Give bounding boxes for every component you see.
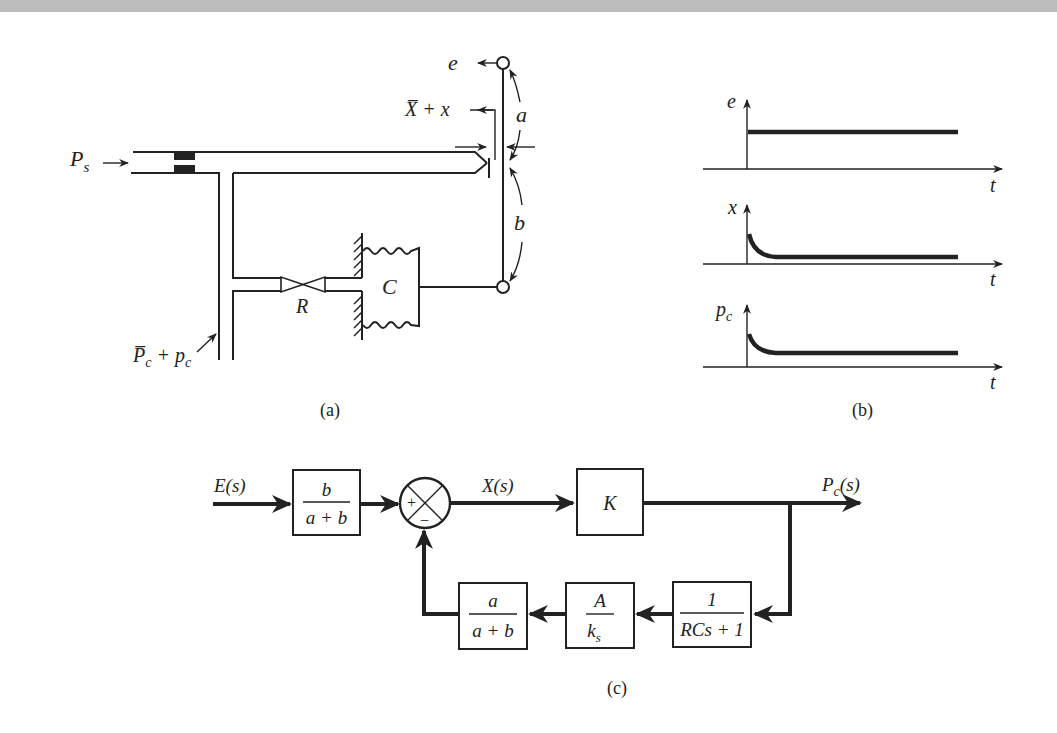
summing-plus-sign: + bbox=[407, 494, 416, 511]
orifice-bottom bbox=[174, 165, 195, 172]
vertical-pipe-inner-upper bbox=[233, 173, 281, 278]
lever-b-arc-upper bbox=[510, 168, 522, 205]
feedback-return-line bbox=[424, 531, 459, 614]
summing-minus-sign: − bbox=[420, 512, 429, 529]
graph-x-curve bbox=[749, 234, 958, 257]
wall-hatch bbox=[354, 236, 362, 336]
block-feedback-gain-num: a bbox=[488, 590, 498, 611]
lever-top-pivot bbox=[497, 57, 509, 69]
block-forward-k-label: K bbox=[602, 492, 618, 514]
signal-error-label: X(s) bbox=[481, 475, 514, 497]
orifice-top bbox=[174, 153, 195, 160]
panel-a-schematic: Ps X̅ + x e a b bbox=[69, 50, 535, 421]
lever-a-label: a bbox=[516, 102, 527, 127]
figure-canvas: Ps X̅ + x e a b bbox=[0, 0, 1057, 733]
signal-output-label: Pc(s) bbox=[821, 474, 860, 499]
input-displacement-label: e bbox=[448, 50, 458, 75]
main-pipe-bottom-left bbox=[131, 173, 219, 360]
supply-pressure-label: Ps bbox=[69, 146, 89, 175]
lever-bottom-pivot bbox=[497, 281, 509, 293]
control-pressure-label: P̅c + pc bbox=[132, 344, 192, 370]
graph-e-ylabel: e bbox=[727, 90, 736, 112]
feedback-branch-line bbox=[755, 503, 790, 614]
restriction-label: R bbox=[295, 295, 308, 317]
lever-a-arc-upper bbox=[510, 70, 520, 102]
vertical-pipe-inner-lower bbox=[233, 291, 281, 360]
valve-right-triangle bbox=[303, 277, 325, 292]
block-input-gain-den: a + b bbox=[306, 507, 347, 528]
block-bellows-gain-num: A bbox=[592, 590, 606, 611]
lever-b-label: b bbox=[514, 210, 525, 235]
graph-x-ylabel: x bbox=[727, 196, 737, 218]
graph-pc-curve bbox=[749, 334, 958, 353]
flapper-position-label: X̅ + x bbox=[404, 98, 450, 120]
panel-c-block-diagram: E(s) b a + b + − X(s) K Pc(s) 1 RCs + 1 … bbox=[213, 469, 860, 699]
graph-x-xlabel: t bbox=[990, 268, 996, 290]
block-lag-den: RCs + 1 bbox=[679, 619, 744, 640]
block-input-gain-num: b bbox=[322, 479, 332, 500]
main-pipe-bottom-right bbox=[233, 163, 487, 173]
capacitance-label: C bbox=[382, 274, 397, 299]
graph-pc-ylabel: pc bbox=[714, 298, 733, 324]
signal-input-label: E(s) bbox=[213, 475, 246, 497]
panel-c-caption: (c) bbox=[607, 678, 627, 699]
control-pressure-arrow bbox=[197, 334, 216, 352]
panel-a-caption: (a) bbox=[320, 400, 340, 421]
block-lag-num: 1 bbox=[707, 589, 717, 610]
lever-a-arc-lower bbox=[510, 130, 520, 160]
panel-b-responses: e t x t pc t (b) bbox=[703, 90, 1002, 421]
valve-left-triangle bbox=[281, 277, 303, 292]
block-feedback-gain-den: a + b bbox=[472, 620, 513, 641]
panel-b-caption: (b) bbox=[852, 400, 873, 421]
graph-pc-xlabel: t bbox=[990, 371, 996, 393]
graph-e-xlabel: t bbox=[990, 174, 996, 196]
lever-b-arc-lower bbox=[510, 242, 522, 281]
